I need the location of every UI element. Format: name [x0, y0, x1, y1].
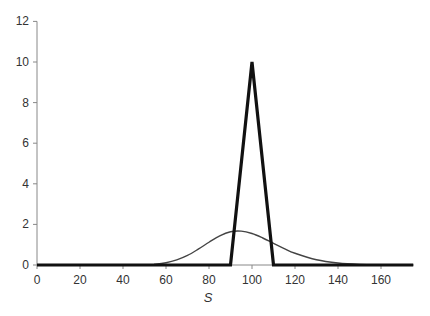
x-tick-label: 60: [159, 273, 173, 287]
series-triangular-line: [37, 62, 413, 265]
x-axis: 020406080100120140160: [34, 265, 414, 287]
x-axis-title: S: [204, 290, 213, 305]
x-tick-label: 20: [73, 273, 87, 287]
plot-area: [37, 62, 413, 265]
series-lognormal-line: [37, 231, 413, 265]
y-tick-label: 12: [16, 14, 30, 28]
x-tick-label: 40: [116, 273, 130, 287]
y-tick-label: 0: [22, 258, 29, 272]
x-tick-label: 160: [371, 273, 391, 287]
y-tick-label: 6: [22, 136, 29, 150]
x-tick-label: 80: [202, 273, 216, 287]
y-tick-label: 10: [16, 55, 30, 69]
x-tick-label: 120: [285, 273, 305, 287]
x-tick-label: 100: [242, 273, 262, 287]
x-tick-label: 140: [328, 273, 348, 287]
y-tick-label: 2: [22, 217, 29, 231]
y-axis: 024681012: [16, 14, 37, 272]
chart: 024681012 020406080100120140160 S: [0, 0, 430, 316]
y-tick-label: 4: [22, 177, 29, 191]
x-tick-label: 0: [34, 273, 41, 287]
y-tick-label: 8: [22, 96, 29, 110]
